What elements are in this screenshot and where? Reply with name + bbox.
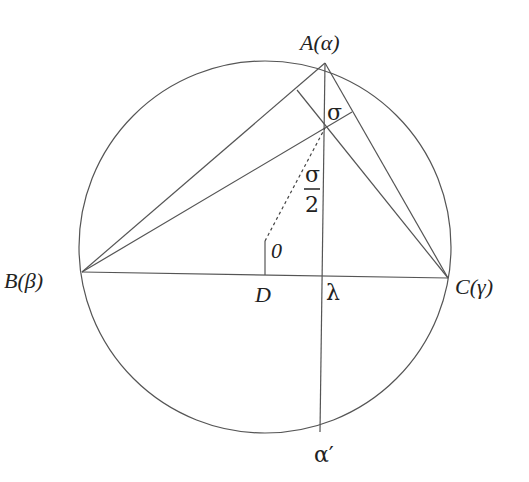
- label-sigma-half-num: σ: [305, 162, 320, 187]
- label-O: 0: [271, 238, 282, 263]
- side-AB: [82, 63, 325, 272]
- label-alpha-prime: α′: [314, 442, 334, 467]
- label-sigma-half-den: 2: [305, 192, 319, 217]
- label-lambda: λ: [326, 280, 340, 305]
- label-A: A(α): [298, 30, 340, 55]
- label-sigma: σ: [327, 100, 342, 125]
- altitude-A: [320, 63, 325, 432]
- label-C: C(γ): [455, 274, 493, 299]
- side-AC: [325, 63, 448, 278]
- label-D: D: [254, 282, 271, 307]
- geometry-diagram: A(α) B(β) C(γ) D 0 λ σ σ 2 α′: [0, 0, 529, 482]
- label-B: B(β): [4, 268, 43, 293]
